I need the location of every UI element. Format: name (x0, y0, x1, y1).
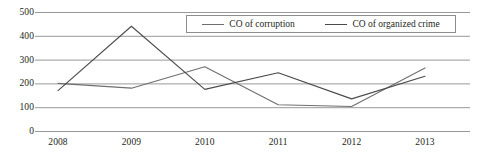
y-axis-tick-label: 500 (0, 7, 34, 17)
x-axis-tick-label: 2013 (400, 137, 450, 147)
y-axis-tick-label: 300 (0, 55, 34, 65)
chart-legend: CO of corruption CO of organized crime (186, 15, 456, 33)
series-lines (58, 26, 425, 106)
x-axis-tick-label: 2009 (106, 137, 156, 147)
series-line-2 (58, 26, 425, 99)
legend-line-swatch-icon (202, 24, 224, 25)
series-line-1 (58, 67, 425, 107)
y-axis-tick-label: 400 (0, 31, 34, 41)
x-axis-tick-label: 2010 (180, 137, 230, 147)
legend-item-label: CO of corruption (229, 19, 294, 29)
y-axis-tick-label: 100 (0, 102, 34, 112)
x-axis-tick-label: 2011 (253, 137, 303, 147)
legend-item-co-of-corruption: CO of corruption (202, 19, 294, 29)
x-axis-tick-label: 2008 (33, 137, 83, 147)
y-axis-tick-label: 0 (0, 126, 34, 136)
x-axis-tick-label: 2012 (327, 137, 377, 147)
y-axis-tick-label: 200 (0, 78, 34, 88)
line-chart: 5004003002001000 20082009201020112012201… (0, 0, 477, 158)
legend-line-swatch-icon (325, 24, 347, 25)
legend-item-co-of-organized-crime: CO of organized crime (325, 19, 439, 29)
legend-item-label: CO of organized crime (352, 19, 439, 29)
